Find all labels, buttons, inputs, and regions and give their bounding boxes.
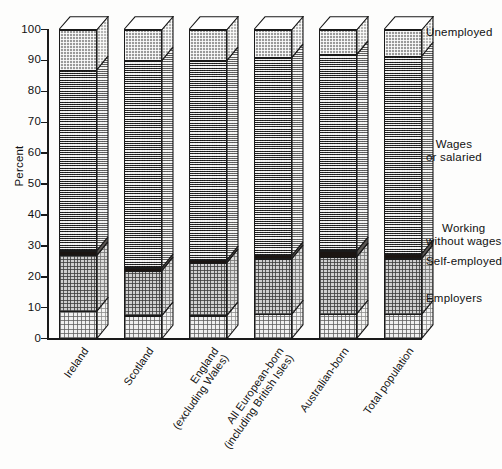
bar-total-population bbox=[384, 0, 422, 469]
segment-employers bbox=[319, 314, 357, 339]
segment-self-employed bbox=[254, 258, 292, 314]
legend-item-label: Employers bbox=[426, 292, 482, 305]
y-tick-label: 90 bbox=[1, 54, 41, 66]
segment-employers bbox=[59, 311, 97, 339]
segment-boundary bbox=[59, 255, 97, 256]
segment-side-wages-or-salaried bbox=[227, 47, 238, 246]
legend-item-unemployed: Unemployed bbox=[426, 26, 493, 39]
segment-boundary bbox=[189, 315, 227, 316]
bar-top-cap bbox=[59, 16, 110, 32]
segment-boundary bbox=[319, 314, 357, 315]
y-tick bbox=[41, 60, 47, 62]
legend-item-employers: Employers bbox=[426, 292, 482, 305]
segment-wages-or-salaried bbox=[319, 54, 357, 250]
segment-unemployed bbox=[189, 30, 227, 61]
segment-boundary bbox=[124, 267, 162, 268]
segment-boundary bbox=[59, 70, 97, 71]
y-axis-title: Percent bbox=[13, 131, 25, 201]
bar-top-cap bbox=[319, 16, 370, 32]
segment-boundary bbox=[319, 54, 357, 55]
bar-base-line bbox=[59, 339, 97, 340]
y-tick bbox=[41, 307, 47, 309]
segment-wages-or-salaried bbox=[189, 60, 227, 259]
y-tick-label: 60 bbox=[1, 147, 41, 159]
segment-boundary bbox=[189, 60, 227, 61]
segment-self-employed bbox=[124, 271, 162, 316]
segment-unemployed bbox=[59, 30, 97, 70]
y-tick bbox=[41, 245, 47, 247]
bar-base-line bbox=[319, 339, 357, 340]
segment-boundary bbox=[254, 57, 292, 58]
segment-unemployed bbox=[254, 30, 292, 58]
segment-self-employed bbox=[59, 255, 97, 311]
segment-boundary bbox=[124, 315, 162, 316]
segment-boundary bbox=[189, 263, 227, 264]
y-tick-label: 20 bbox=[1, 271, 41, 283]
legend-item-label: or salaried bbox=[426, 151, 482, 164]
segment-employers bbox=[254, 314, 292, 339]
segment-side-wages-or-salaried bbox=[292, 44, 303, 242]
segment-boundary bbox=[319, 257, 357, 258]
segment-boundary bbox=[124, 60, 162, 61]
segment-boundary bbox=[254, 258, 292, 259]
segment-boundary bbox=[384, 254, 422, 255]
segment-unemployed bbox=[319, 30, 357, 55]
segment-boundary bbox=[384, 314, 422, 315]
bar-top-cap bbox=[189, 16, 240, 32]
segment-unemployed bbox=[384, 30, 422, 56]
y-tick-label: 0 bbox=[1, 333, 41, 345]
bar-ireland bbox=[59, 0, 97, 469]
segment-boundary bbox=[254, 314, 292, 315]
bar-base-line bbox=[384, 339, 422, 340]
y-axis-line bbox=[47, 29, 49, 339]
y-tick-label: 70 bbox=[1, 116, 41, 128]
segment-employers bbox=[189, 315, 227, 338]
segment-side-wages-or-salaried bbox=[357, 41, 368, 237]
y-tick-label: 10 bbox=[1, 302, 41, 314]
legend-item-label: without wages bbox=[426, 235, 501, 248]
legend-item-working: Workingwithout wages bbox=[426, 222, 501, 248]
y-tick bbox=[41, 122, 47, 124]
segment-self-employed bbox=[384, 258, 422, 314]
segment-boundary bbox=[59, 311, 97, 312]
bar-base-line bbox=[124, 339, 162, 340]
segment-side-wages-or-salaried bbox=[162, 47, 173, 254]
y-tick bbox=[41, 214, 47, 216]
segment-boundary bbox=[384, 56, 422, 57]
bar-australian-born bbox=[319, 0, 357, 469]
y-tick bbox=[41, 29, 47, 31]
y-tick-label: 100 bbox=[1, 24, 41, 36]
segment-boundary bbox=[124, 271, 162, 272]
segment-boundary bbox=[59, 250, 97, 251]
y-tick bbox=[41, 338, 47, 340]
segment-wages-or-salaried bbox=[124, 60, 162, 267]
y-tick bbox=[41, 152, 47, 154]
bar-base-line bbox=[189, 339, 227, 340]
segment-self-employed bbox=[189, 263, 227, 316]
segment-wages-or-salaried bbox=[254, 57, 292, 255]
y-tick-label: 40 bbox=[1, 209, 41, 221]
segment-boundary bbox=[319, 250, 357, 251]
y-tick-label: 30 bbox=[1, 240, 41, 252]
legend-item-label: Working bbox=[426, 222, 501, 235]
segment-employers bbox=[384, 314, 422, 339]
segment-wages-or-salaried bbox=[384, 56, 422, 254]
segment-boundary bbox=[189, 260, 227, 261]
bar-base-line bbox=[254, 339, 292, 340]
y-tick bbox=[41, 183, 47, 185]
bar-top-cap bbox=[124, 16, 175, 32]
segment-side-wages-or-salaried bbox=[97, 56, 108, 237]
y-tick-label: 80 bbox=[1, 85, 41, 97]
bar-scotland bbox=[124, 0, 162, 469]
y-tick-label: 50 bbox=[1, 178, 41, 190]
legend-item-label: Wages bbox=[426, 138, 482, 151]
y-tick bbox=[41, 276, 47, 278]
segment-employers bbox=[124, 315, 162, 338]
bar-top-cap bbox=[254, 16, 305, 32]
segment-unemployed bbox=[124, 30, 162, 61]
legend-item-label: Unemployed bbox=[426, 26, 493, 39]
legend-item-wages: Wagesor salaried bbox=[426, 138, 482, 164]
segment-boundary bbox=[384, 258, 422, 259]
segment-boundary bbox=[254, 255, 292, 256]
